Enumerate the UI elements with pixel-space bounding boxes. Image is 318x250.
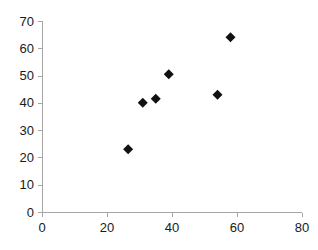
- data-point-marker: [138, 98, 148, 108]
- y-tick-label: 0: [27, 205, 34, 220]
- data-point-marker: [151, 94, 161, 104]
- y-tick-label: 40: [20, 95, 34, 110]
- scatter-chart: 010203040506070020406080: [0, 0, 318, 250]
- y-tick-label: 30: [20, 123, 34, 138]
- x-tick-label: 60: [230, 220, 244, 235]
- plot-area: 010203040506070020406080: [0, 0, 318, 250]
- data-point-marker: [226, 32, 236, 42]
- data-point-marker: [123, 144, 133, 154]
- x-tick-label: 0: [38, 220, 45, 235]
- y-tick-label: 20: [20, 150, 34, 165]
- y-tick-label: 50: [20, 68, 34, 83]
- y-tick-label: 70: [20, 14, 34, 29]
- y-tick-label: 60: [20, 41, 34, 56]
- y-tick-label: 10: [20, 177, 34, 192]
- x-tick-label: 20: [100, 220, 114, 235]
- data-point-marker: [164, 69, 174, 79]
- x-tick-label: 80: [295, 220, 309, 235]
- x-tick-label: 40: [165, 220, 179, 235]
- series-1: [123, 32, 235, 154]
- data-point-marker: [213, 90, 223, 100]
